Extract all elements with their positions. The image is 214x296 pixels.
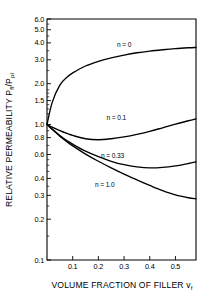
data-curve: [47, 124, 196, 198]
y-tick-label: 0.3: [34, 191, 44, 200]
y-tick-label: 0.4: [34, 174, 44, 183]
x-axis-title-sub: f: [191, 284, 193, 291]
y-axis-title-sub2: pl: [8, 73, 15, 78]
x-axis-tick-labels: 0.10.20.30.40.5: [68, 262, 180, 271]
y-axis-title: RELATIVE PERMEABILITY Pfl/Ppl: [4, 73, 15, 207]
data-curve: [47, 119, 196, 140]
svg-text:VOLUME FRACTION OF FILLER vf: VOLUME FRACTION OF FILLER vf: [51, 280, 192, 291]
chart-figure: 6.05.04.03.02.01.51.00.80.60.40.30.20.1 …: [0, 0, 214, 296]
curve-label: n = 0.33: [101, 152, 125, 159]
curve-label: n = 1.0: [95, 181, 115, 188]
y-axis-title-main: RELATIVE PERMEABILITY P: [4, 90, 14, 207]
y-tick-label: 6.0: [34, 15, 44, 24]
x-tick-label: 0.4: [145, 262, 155, 271]
svg-text:RELATIVE PERMEABILITY Pfl/Ppl: RELATIVE PERMEABILITY Pfl/Ppl: [4, 73, 15, 207]
y-tick-label: 0.2: [34, 215, 44, 224]
curve-labels: n = 0n = 0.1n = 0.33n = 1.0: [95, 41, 132, 188]
data-curve: [47, 124, 196, 167]
y-tick-label: 0.8: [34, 133, 44, 142]
x-tick-label: 0.1: [68, 262, 78, 271]
x-axis-title: VOLUME FRACTION OF FILLER vf: [51, 280, 192, 291]
y-tick-label: 1.5: [34, 96, 44, 105]
x-axis-title-main: VOLUME FRACTION OF FILLER v: [51, 280, 191, 290]
x-tick-label: 0.2: [94, 262, 104, 271]
curve-label: n = 0: [117, 41, 132, 48]
y-tick-label: 1.0: [34, 120, 44, 129]
x-axis-ticks: [73, 256, 176, 260]
y-axis-ticks: [47, 19, 51, 260]
chart-svg: 6.05.04.03.02.01.51.00.80.60.40.30.20.1 …: [0, 0, 214, 296]
y-axis-tick-labels: 6.05.04.03.02.01.51.00.80.60.40.30.20.1: [34, 15, 44, 265]
curve-label: n = 0.1: [107, 114, 127, 121]
y-tick-label: 3.0: [34, 55, 44, 64]
data-curves: [47, 47, 196, 198]
y-tick-label: 5.0: [34, 25, 44, 34]
y-tick-label: 2.0: [34, 79, 44, 88]
y-tick-label: 0.6: [34, 150, 44, 159]
y-tick-label: 4.0: [34, 38, 44, 47]
x-tick-label: 0.5: [171, 262, 181, 271]
x-tick-label: 0.3: [119, 262, 129, 271]
y-axis-title-mid: /P: [4, 78, 14, 87]
data-curve: [47, 47, 196, 124]
y-tick-label: 0.1: [34, 256, 44, 265]
